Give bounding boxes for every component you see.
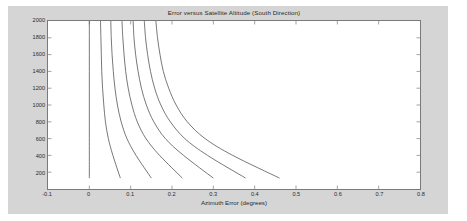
x-tick-label: 0.3 [201,191,225,197]
y-tick-label: 400 [23,153,45,159]
plot-canvas [48,21,420,189]
x-tick-label: 0.5 [284,191,308,197]
x-axis-label: Azimuth Error (degrees) [47,199,421,206]
y-tick-label: 600 [23,136,45,142]
chart-title: Error versus Satellite Altitude (South D… [47,9,421,16]
x-tick-label: 0 [77,191,101,197]
x-tick-label: 0.8 [409,191,433,197]
x-tick-label: 0.7 [367,191,391,197]
y-tick-label: 200 [23,170,45,176]
matlab-figure-panel: Error versus Satellite Altitude (South D… [8,6,448,214]
y-axis-tick-labels: 200400600800100012001400160018002000 [8,20,45,190]
y-tick-label: 2000 [23,17,45,23]
x-tick-label: 0.6 [326,191,350,197]
y-tick-label: 800 [23,119,45,125]
x-tick-label: 0.1 [118,191,142,197]
x-tick-label: -0.1 [35,191,59,197]
y-tick-label: 1200 [23,85,45,91]
data-curve-curve-3 [111,21,152,178]
plot-axes-area [47,20,421,190]
y-tick-label: 1800 [23,34,45,40]
x-tick-label: 0.2 [160,191,184,197]
data-curve-curve-7 [156,21,280,178]
data-curve-curve-2 [100,21,120,178]
y-tick-label: 1400 [23,68,45,74]
y-tick-label: 1600 [23,51,45,57]
x-tick-label: 0.4 [243,191,267,197]
screenshot-root: Error versus Satellite Altitude (South D… [0,0,467,221]
y-tick-label: 1000 [23,102,45,108]
